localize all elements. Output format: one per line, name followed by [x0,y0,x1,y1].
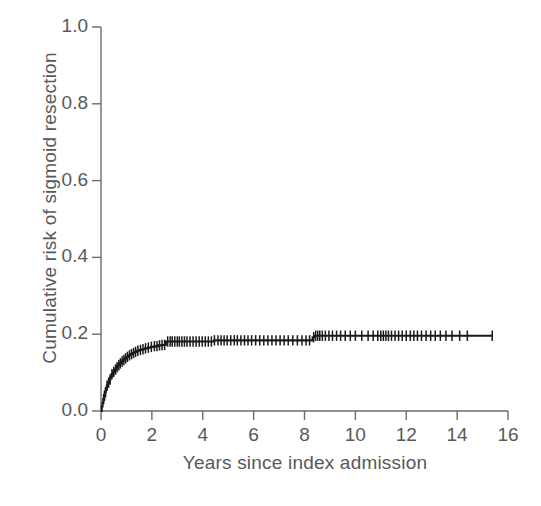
y-tick-label: 0.6 [40,169,88,191]
y-tick-label: 0.2 [40,322,88,344]
figure-panel: Cumulative risk of sigmoid resection Yea… [0,0,541,506]
x-axis-label: Years since index admission [100,452,510,474]
x-tick-label: 10 [335,424,375,446]
y-axis-label: Cumulative risk of sigmoid resection [39,8,61,408]
x-tick-label: 8 [285,424,325,446]
x-tick-label: 14 [437,424,477,446]
x-tick-label: 4 [183,424,223,446]
x-tick-label: 6 [234,424,274,446]
x-tick-label: 0 [81,424,121,446]
y-tick-label: 1.0 [40,15,88,37]
y-tick-label: 0.8 [40,92,88,114]
x-tick-label: 2 [132,424,172,446]
x-tick-label: 12 [386,424,426,446]
axes-group [92,27,508,420]
y-tick-label: 0.0 [40,399,88,421]
censor-marks-group [104,331,493,405]
y-tick-label: 0.4 [40,245,88,267]
x-tick-label: 16 [488,424,528,446]
series-group [101,331,493,411]
